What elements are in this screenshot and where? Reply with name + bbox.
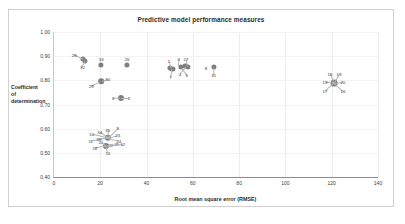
data-point-label: 8 [205,65,207,70]
y-axis-tick-label: 0.90 [40,53,50,59]
data-point-label: 23 [115,132,120,137]
data-point-label: 2 [128,95,130,100]
x-axis-tick-label: 80 [236,180,242,186]
data-point-label: 34 [97,129,102,134]
y-axis-tick-label: 1.00 [40,29,50,35]
y-axis-tick-label: 0.40 [40,174,50,180]
data-point-label: 12 [120,142,125,147]
data-point-label: 1 [167,58,169,63]
data-point-label: 11 [88,138,93,143]
data-point-label: 29 [89,83,94,88]
data-point-label: 33 [99,56,104,61]
x-axis-title: Root mean square error (RMSE) [53,196,378,202]
data-point-label: 17 [323,88,328,93]
data-point-label: 15 [328,71,333,76]
x-gridline [378,32,379,177]
data-point[interactable] [99,62,104,67]
data-point-label: 16 [341,88,346,93]
y-axis-title-line-2: of [11,91,53,98]
y-axis-title-line-1: Coefficient [11,84,53,91]
data-point-label: 26 [124,56,129,61]
data-point-label: 13 [323,79,328,84]
data-point-label: 4 [179,72,181,77]
data-point-label: 14 [105,151,110,156]
x-axis-tick-label: 140 [374,180,382,186]
data-point-label: 10 [89,131,94,136]
data-point-label: 9 [116,125,118,130]
y-axis-tick-label: 0.50 [40,150,50,156]
x-axis-tick-label: 60 [190,180,196,186]
data-point[interactable] [124,62,129,67]
x-axis-tick-label: 40 [144,180,150,186]
data-point-label: 27 [184,56,189,61]
data-point-label: 28 [72,53,77,58]
data-point-label: 30 [105,77,110,82]
data-point-label: 7 [169,75,171,80]
y-gridline [54,129,378,130]
x-axis-tick-label: 0 [53,180,56,186]
y-axis-tick-label: 0.60 [40,126,50,132]
y-gridline [54,32,378,33]
x-axis-tick-label: 120 [328,180,336,186]
data-point-label: 3 [177,57,179,62]
y-axis-tick-label: 0.80 [40,77,50,83]
x-axis-tick-label: 20 [98,180,104,186]
data-point-label: 19 [337,71,342,76]
y-gridline [54,105,378,106]
x-axis-tick-label: 100 [281,180,289,186]
y-gridline [54,153,378,154]
chart-frame: Predictive model performance measures Co… [8,9,394,207]
data-point-label: 35 [105,127,110,132]
y-axis-tick-label: 0.70 [40,102,50,108]
data-point-label: 5 [186,73,188,78]
chart-title: Predictive model performance measures [9,16,393,23]
data-point-label: 20 [341,79,346,84]
data-point-label: 32 [80,65,85,70]
data-point-label: 6 [112,95,114,100]
plot-area: 0204060801001201400.400.500.600.700.800.… [53,32,378,178]
data-point-label: 21 [98,140,103,145]
data-point-label: 18 [92,146,97,151]
data-point-label: 31 [211,72,216,77]
